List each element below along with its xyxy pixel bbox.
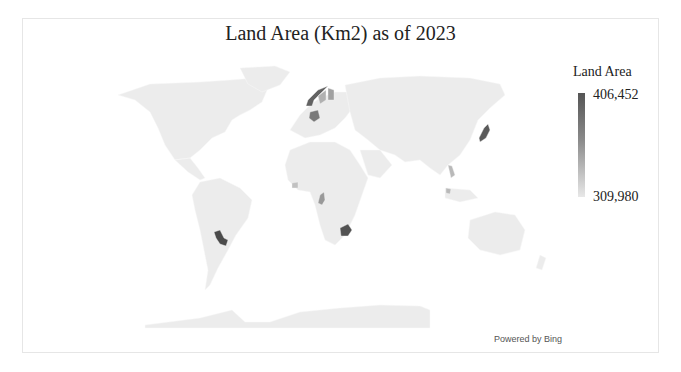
region-cote-divoire[interactable]: [292, 182, 298, 188]
land-antarctica: [145, 305, 430, 328]
world-map: [100, 55, 570, 340]
base-landmass: [118, 66, 546, 328]
region-japan[interactable]: [479, 124, 490, 142]
region-vietnam[interactable]: [448, 165, 455, 178]
region-finland[interactable]: [328, 88, 334, 100]
chart-title: Land Area (Km2) as of 2023: [0, 22, 681, 45]
bing-attribution: Powered by Bing: [494, 334, 562, 344]
region-malaysia[interactable]: [446, 188, 451, 194]
land-new-zealand: [536, 255, 546, 270]
land-north-america: [118, 78, 268, 160]
land-africa: [285, 142, 368, 245]
land-central-america: [175, 158, 205, 180]
legend-min-label: 309,980: [593, 189, 639, 205]
legend-max-label: 406,452: [593, 87, 639, 103]
legend-color-scale: [578, 93, 585, 197]
land-australia: [468, 212, 525, 255]
legend-title: Land Area: [573, 64, 632, 80]
